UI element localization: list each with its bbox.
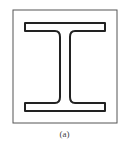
figure-caption: (a)	[0, 129, 129, 139]
frame-border	[13, 10, 117, 123]
i-beam-outline	[25, 23, 105, 111]
